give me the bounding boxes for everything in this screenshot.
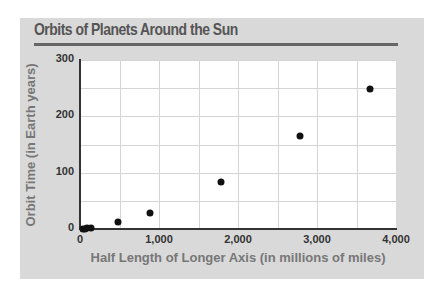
data-point — [296, 133, 303, 140]
data-point — [115, 219, 122, 226]
data-point — [88, 224, 95, 231]
x-axis-line — [79, 228, 397, 230]
y-tick-label: 300 — [34, 52, 74, 64]
title-rule — [34, 43, 398, 46]
data-point — [366, 86, 373, 93]
x-tick-label: 3,000 — [297, 233, 337, 245]
grid-line-horizontal — [80, 116, 396, 117]
y-axis-line — [79, 59, 81, 230]
x-tick-label: 0 — [60, 233, 100, 245]
x-tick-label: 2,000 — [218, 233, 258, 245]
chart-title: Orbits of Planets Around the Sun — [34, 20, 238, 40]
x-tick-label: 4,000 — [376, 233, 416, 245]
y-tick-label: 0 — [34, 221, 74, 233]
y-axis-label: Orbit Time (in Earth years) — [23, 63, 38, 226]
grid-line-horizontal — [80, 145, 396, 146]
grid-line-horizontal — [80, 60, 396, 61]
x-axis-label: Half Length of Longer Axis (in millions … — [91, 250, 386, 265]
data-point — [217, 178, 224, 185]
x-tick-label: 1,000 — [139, 233, 179, 245]
grid-line-horizontal — [80, 88, 396, 89]
grid-line-horizontal — [80, 201, 396, 202]
y-tick-label: 100 — [34, 165, 74, 177]
plot-area — [80, 60, 396, 229]
y-tick-label: 200 — [34, 108, 74, 120]
grid-line-horizontal — [80, 173, 396, 174]
data-point — [146, 209, 153, 216]
